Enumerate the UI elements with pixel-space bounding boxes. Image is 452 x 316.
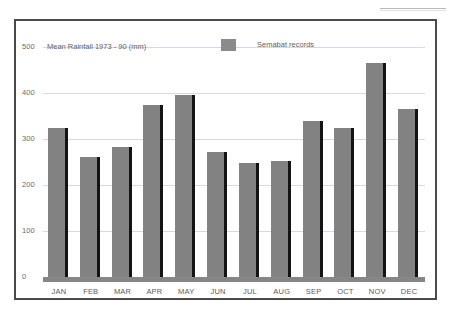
xtick-label-jun: JUN [202, 287, 234, 296]
xtick-label-aug: AUG [266, 287, 298, 296]
bar-slot-aug [266, 21, 298, 298]
bar-slot-feb [75, 21, 107, 298]
bar-series-semabat-records [43, 21, 425, 298]
xtick-label-jul: JUL [234, 287, 266, 296]
xtick-label-dec: DEC [393, 287, 425, 296]
bar-slot-jul [234, 21, 266, 298]
bar-jan[interactable] [48, 128, 68, 278]
bar-slot-may [170, 21, 202, 298]
bar-slot-nov [361, 21, 393, 298]
bar-slot-sep [298, 21, 330, 298]
bar-nov[interactable] [366, 63, 386, 277]
chart-figure-frame: 500 400 300 200 100 0 Mean Rainfall 1973… [14, 19, 437, 300]
category-axis-baseline [43, 277, 425, 282]
xtick-label-oct: OCT [330, 287, 362, 296]
xtick-label-apr: APR [139, 287, 171, 296]
bar-sep[interactable] [303, 121, 323, 277]
bar-slot-apr [139, 21, 171, 298]
bar-slot-jan [43, 21, 75, 298]
bar-oct[interactable] [334, 128, 354, 278]
bar-mar[interactable] [112, 147, 132, 277]
bar-slot-jun [202, 21, 234, 298]
xtick-label-feb: FEB [75, 287, 107, 296]
bar-feb[interactable] [80, 157, 100, 277]
chart-plot-area: 500 400 300 200 100 0 Mean Rainfall 1973… [16, 21, 435, 298]
xtick-label-jan: JAN [43, 287, 75, 296]
xtick-label-nov: NOV [361, 287, 393, 296]
bar-jun[interactable] [207, 152, 227, 277]
bar-aug[interactable] [271, 161, 291, 277]
scan-artifact-line [380, 8, 446, 9]
xtick-label-sep: SEP [298, 287, 330, 296]
bar-slot-dec [393, 21, 425, 298]
bar-slot-oct [330, 21, 362, 298]
bar-jul[interactable] [239, 163, 259, 277]
bar-may[interactable] [175, 95, 195, 277]
bar-apr[interactable] [143, 105, 163, 278]
xtick-label-mar: MAR [107, 287, 139, 296]
bar-slot-mar [107, 21, 139, 298]
bar-dec[interactable] [398, 109, 418, 277]
xtick-label-may: MAY [170, 287, 202, 296]
